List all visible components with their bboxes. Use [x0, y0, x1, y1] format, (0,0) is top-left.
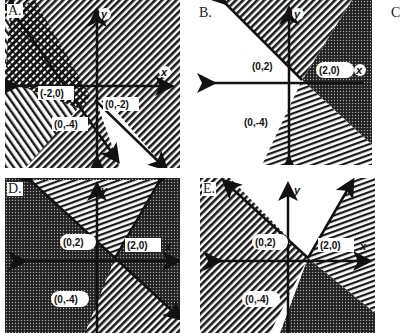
- graph-d-svg: (0,2) (2,0) (0,-4) x y: [5, 178, 180, 333]
- panel-label-e: E.: [202, 182, 216, 196]
- point-label: (0,-4): [54, 294, 78, 305]
- y-axis-label: y: [293, 184, 301, 196]
- y-axis-label: y: [293, 8, 301, 20]
- graph-panel-e: (0,2) (2,0) (0,-4) x y E.: [200, 178, 375, 333]
- point-label: (2,0): [319, 65, 340, 76]
- panel-label-d: D.: [7, 182, 23, 196]
- point-label: (0,-2): [105, 99, 129, 110]
- x-axis-label: x: [355, 64, 363, 76]
- graph-panel-b: (0,2) (2,0) (0,-4) x y B.: [192, 0, 374, 165]
- y-axis-label: y: [100, 184, 108, 196]
- x-axis-label: x: [160, 66, 168, 78]
- x-axis-label: x: [164, 240, 172, 252]
- point-label: (0,-4): [245, 294, 269, 305]
- graph-e-svg: (0,2) (2,0) (0,-4) x y: [200, 178, 375, 333]
- y-axis-label: y: [100, 8, 108, 20]
- graph-a-svg: (-2,0) (0,-2) (0,-4) x y: [5, 0, 180, 168]
- panel-label-c: C: [390, 6, 401, 20]
- point-label: (0,2): [252, 61, 273, 72]
- panel-label-a: A.: [7, 4, 23, 18]
- point-label: (0,-4): [244, 117, 268, 128]
- graph-panel-d: (0,2) (2,0) (0,-4) x y D.: [5, 178, 180, 333]
- point-label: (0,2): [63, 237, 84, 248]
- point-label: (0,-4): [54, 119, 78, 130]
- point-label: (0,2): [255, 237, 276, 248]
- graph-panel-a: (-2,0) (0,-2) (0,-4) x y A.: [5, 0, 180, 168]
- point-label: (2,0): [320, 240, 341, 251]
- point-label: (-2,0): [40, 88, 64, 99]
- graph-b-svg: (0,2) (2,0) (0,-4) x y: [192, 0, 374, 165]
- panel-label-b: B.: [198, 6, 213, 20]
- x-axis-label: x: [359, 240, 367, 252]
- point-label: (2,0): [127, 240, 148, 251]
